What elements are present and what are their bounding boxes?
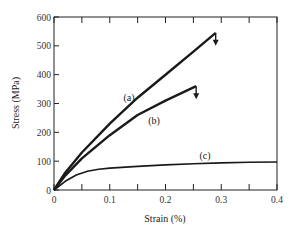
y-tick-label: 0 (46, 186, 51, 196)
x-tick-label: 0.4 (271, 195, 283, 205)
curves (54, 33, 277, 190)
y-tick-label: 500 (37, 41, 52, 51)
curve-label-b: (b) (148, 115, 160, 127)
fracture-arrow-icon (193, 93, 199, 99)
curve-label-c: (c) (199, 150, 210, 162)
plot-frame (54, 17, 277, 190)
x-tick-label: 0.1 (104, 195, 116, 205)
axis-ticks (54, 17, 277, 190)
x-tick-label: 0.3 (215, 195, 227, 205)
x-tick-label: 0.2 (160, 195, 172, 205)
curve-label-a: (a) (123, 92, 134, 104)
y-tick-label: 200 (37, 128, 52, 138)
y-tick-label: 600 (37, 13, 52, 23)
x-axis-title: Strain (%) (144, 213, 185, 225)
curve-labels: (a)(b)(c) (123, 92, 210, 162)
fracture-arrow-icon (213, 40, 219, 46)
stress-strain-chart: 00.10.20.30.40100200300400500600 (a)(b)(… (0, 0, 297, 236)
y-tick-label: 400 (37, 70, 52, 80)
y-tick-label: 300 (37, 99, 52, 109)
y-axis-title: Stress (MPa) (10, 77, 22, 129)
y-tick-label: 100 (37, 157, 52, 167)
x-tick-label: 0 (52, 195, 57, 205)
